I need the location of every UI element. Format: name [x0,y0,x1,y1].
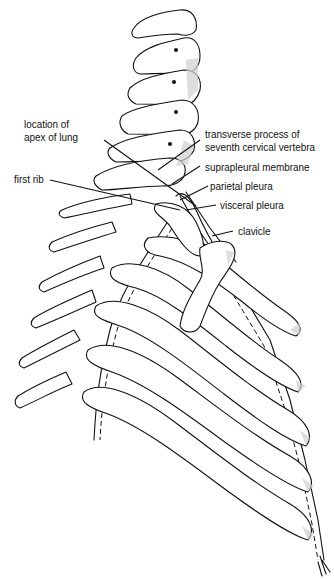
leader-parietal-pleura [180,186,208,200]
leader-visceral-pleura [186,205,216,210]
leader-clavicle [212,231,233,236]
label-suprapleural-membrane: suprapleural membrane [205,161,309,174]
anatomy-drawing [0,0,334,579]
label-first-rib: first rib [14,173,44,186]
label-parietal-pleura: parietal pleura [210,180,273,193]
label-visceral-pleura: visceral pleura [220,199,284,212]
label-location-apex-lung: location of apex of lung [24,118,78,144]
label-transverse-process: transverse process of seventh cervical v… [205,128,315,154]
label-line: transverse process of [205,128,315,141]
label-line: location of [24,118,78,131]
anatomy-figure: location of apex of lung first rib trans… [0,0,334,579]
label-line: seventh cervical vertebra [205,141,315,154]
label-clavicle: clavicle [238,225,270,238]
label-line: apex of lung [24,131,78,144]
cervical-vertebrae [94,10,200,190]
